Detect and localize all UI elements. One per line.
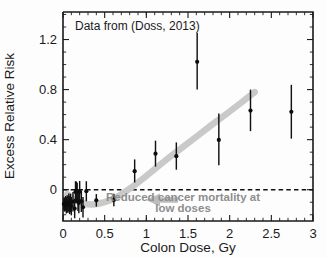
x-tick-label: 0 [59,226,66,241]
chart-figure: Reduced cancer mortality at low doses Da… [0,0,327,258]
y-tick-label: 0.4 [39,132,57,147]
point-marker [174,154,178,158]
y-tick-label: 0 [50,182,57,197]
point-marker [94,198,98,202]
point-marker [195,60,199,64]
point-marker [84,189,88,193]
point-marker [248,109,252,113]
x-tick-label: 2.5 [262,226,280,241]
x-tick-label: 3 [309,226,316,241]
point-marker [153,152,157,156]
x-tick-label: 1 [143,226,150,241]
y-tick-label: 1.2 [39,32,57,47]
x-axis-tick-labels: 00.511.522.53 [59,226,316,241]
point-marker [289,110,293,114]
y-axis-title: Excess Relative Risk [2,53,17,179]
plot-title: Data from (Doss, 2013) [75,19,200,33]
y-tick-label: 0.8 [39,82,57,97]
x-tick-label: 0.5 [96,226,114,241]
point-marker [81,205,85,209]
x-tick-label: 2 [226,226,233,241]
point-marker [73,206,77,210]
annotation-line-2: low doses [155,202,211,214]
chart-canvas: Reduced cancer mortality at low doses Da… [0,0,327,258]
x-tick-label: 1.5 [179,226,197,241]
point-marker [133,169,137,173]
point-marker [217,138,221,142]
x-axis-title: Colon Dose, Gy [140,240,236,255]
